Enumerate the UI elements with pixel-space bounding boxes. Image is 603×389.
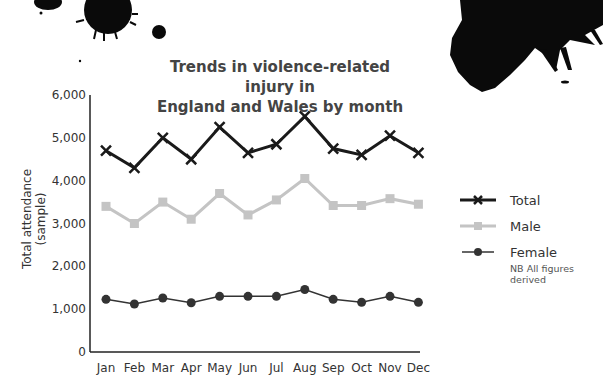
data-point <box>300 285 309 294</box>
square-marker-line-icon <box>460 219 496 233</box>
data-point <box>300 174 309 183</box>
data-point <box>101 146 111 156</box>
x-marker-line-icon <box>460 193 496 207</box>
chart-title: Trends in violence-related injury in Eng… <box>150 57 410 117</box>
data-point <box>244 292 253 301</box>
y-tick-label: 5,000 <box>52 131 86 145</box>
legend-note: NB All figures derived <box>510 263 603 285</box>
data-point <box>386 194 395 203</box>
data-point <box>129 163 139 173</box>
legend-item-female: Female <box>460 239 603 265</box>
data-point <box>102 295 111 304</box>
data-point <box>130 300 139 309</box>
data-point <box>215 292 224 301</box>
x-tick-label: May <box>207 361 232 375</box>
data-point <box>386 292 395 301</box>
data-point <box>329 295 338 304</box>
x-tick-label: Feb <box>124 361 145 375</box>
x-tick-label: Jul <box>268 361 283 375</box>
data-point <box>187 215 196 224</box>
x-tick-label: Aug <box>293 361 316 375</box>
chart-title-line-2: England and Wales by month <box>150 97 410 117</box>
data-point <box>158 133 168 143</box>
circle-marker-line-icon <box>460 245 496 259</box>
x-tick-label: Jan <box>96 361 116 375</box>
data-point <box>357 298 366 307</box>
y-tick-label: 3,000 <box>52 217 86 231</box>
legend-item-total: Total <box>460 187 603 213</box>
series-female <box>102 285 423 309</box>
data-point <box>414 298 423 307</box>
x-tick-label: Nov <box>378 361 401 375</box>
data-point <box>413 148 423 158</box>
data-point <box>215 189 224 198</box>
data-point <box>272 195 281 204</box>
x-tick-label: Dec <box>407 361 430 375</box>
chart-series <box>101 111 423 308</box>
data-point <box>187 298 196 307</box>
series-total <box>101 111 423 172</box>
data-point <box>186 154 196 164</box>
y-tick-label: 2,000 <box>52 259 86 273</box>
y-tick-label: 1,000 <box>52 302 86 316</box>
chart-title-line-1: Trends in violence-related injury in <box>150 57 410 97</box>
chart-legend: Total Male Female NB All figures derived <box>460 187 603 285</box>
y-axis-label: Total attendance (sample) <box>20 149 48 289</box>
chart-axes: 01,0002,0003,0004,0005,0006,000JanFebMar… <box>52 88 430 375</box>
data-point <box>414 200 423 209</box>
x-tick-label: Apr <box>181 361 202 375</box>
data-point <box>158 198 167 207</box>
y-tick-label: 0 <box>78 345 86 359</box>
legend-label-female: Female <box>510 245 557 260</box>
y-tick-label: 6,000 <box>52 88 86 102</box>
data-point <box>158 294 167 303</box>
legend-label-male: Male <box>510 219 541 234</box>
data-point <box>130 219 139 228</box>
y-tick-label: 4,000 <box>52 174 86 188</box>
data-point <box>357 201 366 210</box>
data-point <box>215 122 225 132</box>
data-point <box>244 210 253 219</box>
series-male <box>102 174 423 228</box>
data-point <box>272 292 281 301</box>
legend-label-total: Total <box>510 193 540 208</box>
x-tick-label: Jun <box>238 361 258 375</box>
x-tick-label: Sep <box>322 361 345 375</box>
x-tick-label: Oct <box>351 361 372 375</box>
data-point <box>329 201 338 210</box>
legend-item-male: Male <box>460 213 603 239</box>
data-point <box>385 131 395 141</box>
data-point <box>102 202 111 211</box>
x-tick-label: Mar <box>151 361 174 375</box>
